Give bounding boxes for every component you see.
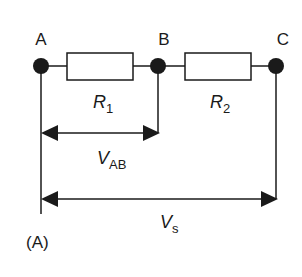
node-a-label: A bbox=[35, 30, 47, 49]
r2-label: R2 bbox=[210, 92, 230, 116]
node-c-dot bbox=[268, 58, 284, 74]
node-b-dot bbox=[150, 58, 166, 74]
circuit-diagram: A B C R1 R2 VAB Vs (A) bbox=[0, 0, 302, 277]
arrowhead-left-icon bbox=[41, 191, 58, 207]
vs-label: Vs bbox=[160, 212, 179, 236]
vab-arrow bbox=[41, 125, 160, 141]
panel-label: (A) bbox=[26, 233, 49, 252]
node-a-dot bbox=[33, 58, 49, 74]
vs-arrow bbox=[41, 191, 278, 207]
arrowhead-left-icon bbox=[41, 125, 58, 141]
vab-label: VAB bbox=[97, 148, 126, 172]
node-c-label: C bbox=[277, 30, 289, 49]
resistor-r1 bbox=[67, 53, 133, 80]
resistor-r2 bbox=[185, 53, 251, 80]
node-b-label: B bbox=[158, 30, 169, 49]
r1-label: R1 bbox=[93, 92, 113, 116]
